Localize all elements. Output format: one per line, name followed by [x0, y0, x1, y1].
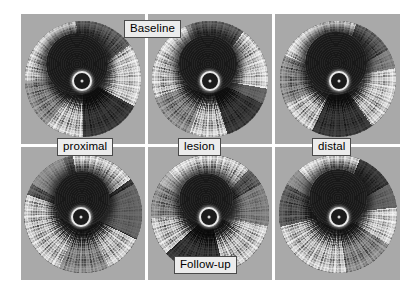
catheter-ring-icon [200, 71, 220, 91]
catheter-ring-icon [199, 207, 219, 227]
ultrasound-disc [24, 155, 142, 273]
ultrasound-disc [279, 155, 397, 273]
ultrasound-disc [152, 21, 268, 137]
label-proximal: proximal [57, 138, 113, 156]
ivus-panel-followup-distal[interactable] [275, 147, 400, 280]
catheter-ring-icon [329, 207, 349, 227]
column-divider-2 [272, 14, 275, 280]
label-baseline: Baseline [124, 20, 181, 38]
catheter-ring-icon [72, 71, 92, 91]
catheter-ring-icon [329, 71, 349, 91]
ivus-panel-baseline-distal[interactable] [275, 14, 400, 144]
label-lesion: lesion [178, 138, 221, 156]
label-distal: distal [312, 138, 351, 156]
ivus-figure: Baseline proximal lesion distal Follow-u… [21, 14, 400, 280]
catheter-ring-icon [71, 207, 91, 227]
ivus-panel-followup-proximal[interactable] [21, 147, 145, 280]
column-divider-1 [145, 14, 148, 280]
label-follow-up: Follow-up [174, 256, 237, 274]
ultrasound-disc [280, 21, 396, 137]
ultrasound-disc [151, 155, 269, 273]
ultrasound-disc [25, 21, 141, 137]
